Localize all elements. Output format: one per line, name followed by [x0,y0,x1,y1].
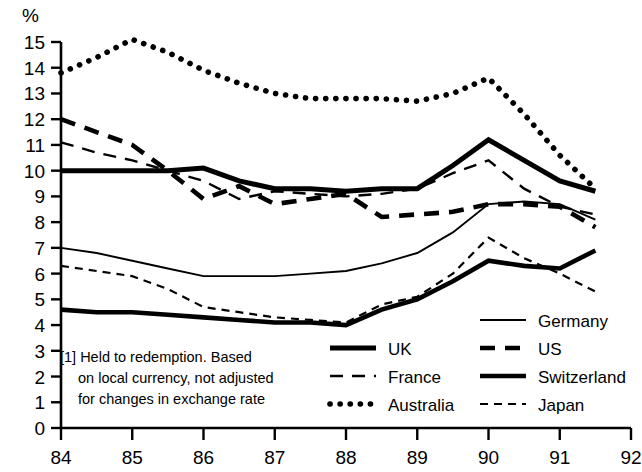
x-tick-label: 87 [264,447,285,468]
x-tick-label: 85 [122,447,143,468]
series-line-australia [61,39,595,188]
y-tick-label: 0 [34,418,45,439]
footnote-line: on local currency, not adjusted [78,370,274,386]
y-tick-label: 14 [24,58,46,79]
y-tick-label: 2 [34,367,45,388]
y-tick-label: 13 [24,83,45,104]
series-line-us [61,119,595,227]
series-line-switzerland [61,250,595,325]
y-axis-unit-label: % [22,5,39,26]
y-tick-label: 15 [24,32,45,53]
y-tick-label: 8 [34,212,45,233]
x-tick-label: 90 [478,447,499,468]
y-tick-label: 11 [25,135,45,156]
footnote-line: [1] Held to redemption. Based [60,349,252,365]
chart-legend: UKFranceAustraliaGermanyUSSwitzerlandJap… [330,312,626,415]
series-line-uk [61,140,595,191]
legend-label-us: US [538,340,562,359]
y-tick-label: 1 [34,392,45,413]
x-tick-label: 86 [193,447,214,468]
legend-label-uk: UK [388,340,412,359]
x-tick-label: 88 [335,447,356,468]
legend-label-switzerland: Switzerland [538,368,626,387]
legend-label-germany: Germany [538,312,608,331]
y-axis-ticks: 0123456789101112131415 [24,32,61,439]
x-axis-ticks: 848586878889909192 [50,428,641,468]
y-tick-label: 9 [34,186,45,207]
line-chart-canvas: % 0123456789101112131415 848586878889909… [0,0,642,472]
data-series-layer [61,39,595,325]
y-tick-label: 3 [34,341,45,362]
legend-label-france: France [388,368,441,387]
y-tick-label: 6 [34,264,45,285]
y-tick-label: 4 [34,315,45,336]
legend-label-australia: Australia [388,396,455,415]
x-tick-label: 91 [549,447,570,468]
legend-label-japan: Japan [538,396,584,415]
footnote-line: for changes in exchange rate [78,391,265,407]
x-tick-label: 92 [620,447,641,468]
y-tick-label: 7 [34,238,45,259]
x-tick-label: 89 [407,447,428,468]
x-tick-label: 84 [50,447,72,468]
footnote-annotation: [1] Held to redemption. Basedon local cu… [60,349,274,407]
y-tick-label: 12 [24,109,45,130]
y-tick-label: 5 [34,289,45,310]
series-line-japan [61,238,595,323]
chart-figure: % 0123456789101112131415 848586878889909… [0,0,642,472]
y-tick-label: 10 [24,161,45,182]
